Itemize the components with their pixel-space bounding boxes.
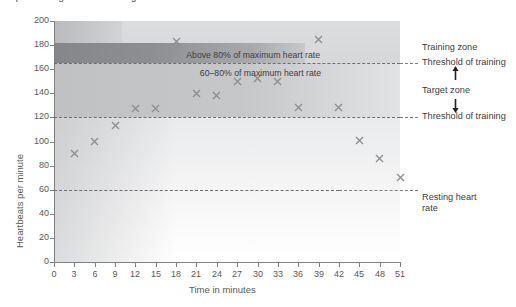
label-threshold-of-training-upper: Threshold of training [422, 57, 506, 68]
x-tick-label-18: 18 [166, 269, 186, 279]
chart-figure: Graph showing heart rate during exercise… [0, 0, 516, 307]
x-tick-3 [74, 263, 75, 267]
x-tick-label-51: 51 [390, 269, 410, 279]
label-resting-heart-rate-line2: rate [422, 203, 438, 213]
arrow-up-icon [452, 66, 459, 80]
y-tick-40 [50, 214, 54, 215]
reference-line-lower-threshold-of-training [54, 117, 400, 118]
x-axis-title: Time in minutes [189, 284, 256, 295]
annotation-above-80: Above 80% of maximum heart rate [186, 50, 320, 60]
x-axis-line [54, 262, 401, 263]
x-tick-label-12: 12 [125, 269, 145, 279]
x-tick-45 [359, 263, 360, 267]
y-tick-140 [50, 93, 54, 94]
x-tick-label-48: 48 [370, 269, 390, 279]
x-tick-label-30: 30 [248, 269, 268, 279]
y-tick-100 [50, 142, 54, 143]
x-tick-label-3: 3 [64, 269, 84, 279]
y-tick-200 [50, 21, 54, 22]
y-tick-label-140: 140 [24, 87, 49, 97]
x-tick-label-0: 0 [44, 269, 64, 279]
x-tick-48 [380, 263, 381, 267]
reference-line-stub-lower-threshold-of-training [400, 117, 418, 118]
x-tick-label-9: 9 [105, 269, 125, 279]
x-tick-18 [176, 263, 177, 267]
y-tick-label-120: 120 [24, 111, 49, 121]
reference-line-upper-threshold-of-training [54, 63, 400, 64]
y-tick-label-60: 60 [24, 184, 49, 194]
x-tick-9 [115, 263, 116, 267]
y-tick-label-200: 200 [24, 15, 49, 25]
x-tick-label-6: 6 [85, 269, 105, 279]
x-tick-12 [135, 263, 136, 267]
y-tick-label-100: 100 [24, 136, 49, 146]
y-tick-160 [50, 69, 54, 70]
label-training-zone: Training zone [422, 42, 477, 53]
y-axis-line [54, 21, 55, 263]
x-tick-label-15: 15 [146, 269, 166, 279]
x-tick-label-21: 21 [186, 269, 206, 279]
reference-line-stub-upper-threshold-of-training [400, 63, 418, 64]
x-tick-27 [237, 263, 238, 267]
label-threshold-of-training-lower: Threshold of training [422, 111, 506, 122]
x-tick-39 [319, 263, 320, 267]
x-tick-21 [196, 263, 197, 267]
y-tick-label-160: 160 [24, 63, 49, 73]
label-resting-heart-rate: Resting heartrate [422, 192, 482, 213]
cropped-caption-text: Graph showing heart rate during exercise… [0, 0, 262, 2]
cropped-caption: Graph showing heart rate during exercise… [0, 0, 516, 9]
x-tick-label-42: 42 [329, 269, 349, 279]
x-tick-6 [95, 263, 96, 267]
y-tick-20 [50, 238, 54, 239]
band-above-80-dark-lower [54, 21, 122, 43]
y-tick-80 [50, 166, 54, 167]
x-tick-label-27: 27 [227, 269, 247, 279]
y-tick-label-40: 40 [24, 208, 49, 218]
x-tick-51 [400, 263, 401, 267]
y-tick-label-180: 180 [24, 39, 49, 49]
x-tick-36 [298, 263, 299, 267]
reference-line-resting-heart-rate [54, 190, 339, 191]
x-tick-label-24: 24 [207, 269, 227, 279]
x-tick-0 [54, 263, 55, 267]
x-tick-label-45: 45 [349, 269, 369, 279]
x-tick-label-33: 33 [268, 269, 288, 279]
annotation-60-80: 60–80% of maximum heart rate [200, 68, 321, 78]
x-tick-label-36: 36 [288, 269, 308, 279]
y-tick-180 [50, 45, 54, 46]
x-tick-15 [156, 263, 157, 267]
x-tick-42 [339, 263, 340, 267]
x-tick-33 [278, 263, 279, 267]
y-tick-label-80: 80 [24, 160, 49, 170]
y-axis-title: Heartbeats per minute [14, 154, 25, 248]
arrow-down-icon [452, 99, 459, 113]
y-tick-label-0: 0 [24, 256, 49, 266]
x-tick-24 [217, 263, 218, 267]
y-tick-label-20: 20 [24, 232, 49, 242]
x-tick-label-39: 39 [309, 269, 329, 279]
reference-line-stub-resting-heart-rate [339, 190, 418, 191]
label-target-zone: Target zone [422, 85, 470, 96]
x-tick-30 [258, 263, 259, 267]
label-resting-heart-rate-line1: Resting heart [422, 192, 477, 202]
